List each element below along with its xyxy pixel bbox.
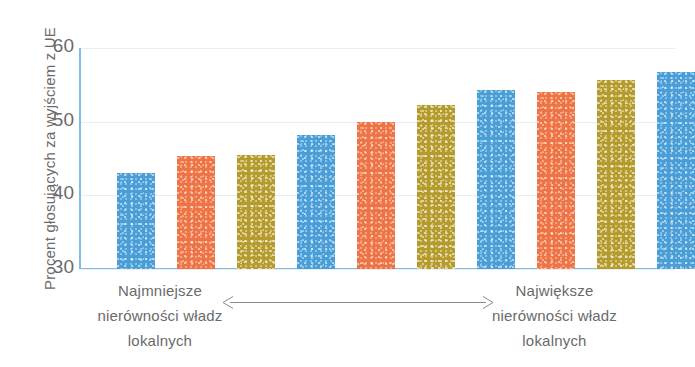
gridline-60: [79, 48, 675, 49]
x-axis-caption-left: Najmniejsze nierówności władz lokalnych: [60, 278, 260, 353]
y-tick-label-30: 30: [28, 256, 74, 278]
gridline-30: [79, 269, 675, 270]
bar-10: [657, 72, 695, 269]
bar-6: [417, 105, 455, 269]
bar-9: [597, 80, 635, 269]
bar-5: [357, 122, 395, 269]
caption-right-line3: lokalnych: [447, 328, 662, 353]
bar-7: [477, 90, 515, 269]
y-tick-label-50: 50: [28, 109, 74, 131]
plot-area: [79, 48, 675, 269]
y-tick-label-40: 40: [28, 182, 74, 204]
caption-left-line3: lokalnych: [60, 328, 260, 353]
bar-4: [297, 135, 335, 269]
bar-8: [537, 92, 575, 269]
x-axis-caption-right: Największe nierówności władz lokalnych: [447, 278, 662, 353]
y-axis-tick-labels: 60 50 40 30: [18, 48, 74, 269]
arrow-head-left-icon: [222, 296, 234, 309]
arrow-line: [230, 302, 486, 303]
y-tick-label-60: 60: [28, 35, 74, 57]
bar-1: [117, 173, 155, 269]
arrow-head-right-icon: [482, 296, 494, 309]
range-arrow: [222, 296, 494, 310]
bar-2: [177, 156, 215, 269]
bar-3: [237, 155, 275, 269]
y-axis-line: [79, 48, 81, 269]
